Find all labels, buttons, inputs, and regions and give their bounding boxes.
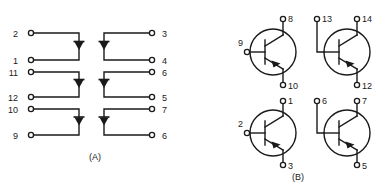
transistor-npn-14-13-12: 14 12 13 xyxy=(314,14,372,91)
terminal-pin-3[interactable] xyxy=(149,30,154,35)
panel-a-diode-array: 2 1 3 4 11 12 xyxy=(8,29,167,163)
diode-branch-6-5: 6 5 xyxy=(99,68,168,103)
terminal-pin-10[interactable] xyxy=(28,106,33,111)
terminal-pin-8[interactable] xyxy=(280,16,285,21)
pin-label-8: 8 xyxy=(288,14,293,24)
pin-label-6-upper: 6 xyxy=(162,68,167,78)
terminal-pin-3[interactable] xyxy=(280,162,285,167)
wire-branch-10-9 xyxy=(34,109,79,135)
terminal-pin-1[interactable] xyxy=(280,98,285,103)
pin-label-5: 5 xyxy=(162,93,167,103)
terminal-pin-1[interactable] xyxy=(28,57,33,62)
terminal-pin-2[interactable] xyxy=(244,130,249,135)
diode-anode-triangle xyxy=(100,118,109,126)
terminal-pin-6[interactable] xyxy=(314,98,319,103)
terminal-pin-6-upper[interactable] xyxy=(149,69,154,74)
terminal-pin-12[interactable] xyxy=(28,94,33,99)
diode-anode-triangle xyxy=(100,42,109,50)
terminal-pin-12[interactable] xyxy=(354,82,359,87)
pin-label-2: 2 xyxy=(238,119,243,129)
wire-branch-6-5 xyxy=(104,72,149,97)
transistor-collector-lead xyxy=(339,35,357,46)
pin-label-1: 1 xyxy=(288,96,293,106)
diode-branch-7-6: 7 6 xyxy=(99,105,168,141)
terminal-pin-6-lower[interactable] xyxy=(149,132,154,137)
panel-a-caption: (A) xyxy=(89,152,101,162)
terminal-pin-5[interactable] xyxy=(149,94,154,99)
pin-label-5: 5 xyxy=(362,161,367,171)
pin-label-6-lower: 6 xyxy=(162,131,167,141)
terminal-pin-7[interactable] xyxy=(354,98,359,103)
wire-branch-2-1 xyxy=(34,33,79,60)
diode-anode-triangle xyxy=(75,118,84,126)
diode-branch-11-12: 11 12 xyxy=(8,68,85,103)
pin-label-7: 7 xyxy=(362,96,367,106)
terminal-pin-9[interactable] xyxy=(244,49,249,54)
terminal-pin-4[interactable] xyxy=(149,57,154,62)
terminal-pin-13[interactable] xyxy=(314,16,319,21)
diode-branch-10-9: 10 9 xyxy=(8,105,85,141)
pin-label-10: 10 xyxy=(8,105,18,115)
transistor-collector-lead xyxy=(265,116,283,127)
terminal-pin-14[interactable] xyxy=(354,16,359,21)
diode-anode-triangle xyxy=(75,80,84,88)
terminal-pin-10[interactable] xyxy=(280,82,285,87)
diode-branch-3-4: 3 4 xyxy=(99,29,168,66)
pin-label-14: 14 xyxy=(362,14,372,24)
pin-label-3: 3 xyxy=(162,29,167,39)
wire-base-13-route xyxy=(317,22,324,52)
wire-branch-3-4 xyxy=(104,33,149,60)
pin-label-12: 12 xyxy=(8,93,18,103)
terminal-pin-7[interactable] xyxy=(149,106,154,111)
terminal-pin-9[interactable] xyxy=(28,132,33,137)
transistor-collector-lead xyxy=(339,116,357,127)
pin-label-3: 3 xyxy=(288,161,293,171)
terminal-pin-11[interactable] xyxy=(28,69,33,74)
pin-label-12: 12 xyxy=(362,81,372,91)
wire-branch-11-12 xyxy=(34,72,79,97)
schematic-figure: 2 1 3 4 11 12 xyxy=(0,0,383,187)
transistor-npn-8-9-10: 8 10 9 xyxy=(238,14,298,91)
transistor-collector-lead xyxy=(265,35,283,46)
panel-b-caption: (B) xyxy=(292,172,304,182)
pin-label-13: 13 xyxy=(322,14,332,24)
pin-label-10: 10 xyxy=(288,81,298,91)
wire-branch-7-6 xyxy=(104,109,149,135)
pin-label-6: 6 xyxy=(322,96,327,106)
pin-label-9: 9 xyxy=(13,131,18,141)
pin-label-7: 7 xyxy=(162,105,167,115)
pin-label-2: 2 xyxy=(13,29,18,39)
diode-anode-triangle xyxy=(100,80,109,88)
diode-branch-2-1: 2 1 xyxy=(13,29,85,66)
pin-label-1: 1 xyxy=(13,56,18,66)
pin-label-11: 11 xyxy=(9,68,18,78)
terminal-pin-5[interactable] xyxy=(354,162,359,167)
pin-label-9: 9 xyxy=(238,38,243,48)
terminal-pin-2[interactable] xyxy=(28,30,33,35)
diode-anode-triangle xyxy=(75,42,84,50)
pin-label-4: 4 xyxy=(162,56,167,66)
transistor-npn-7-6-5: 7 5 6 xyxy=(314,96,370,171)
wire-base-6-route xyxy=(317,104,324,133)
panel-b-transistor-array: 8 10 9 14 12 13 xyxy=(238,14,372,182)
transistor-npn-1-2-3: 1 3 2 xyxy=(238,96,296,171)
schematic-canvas: 2 1 3 4 11 12 xyxy=(0,0,383,187)
